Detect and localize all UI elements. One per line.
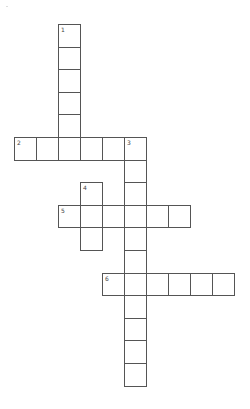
crossword-cell[interactable] (58, 69, 81, 93)
crossword-cell[interactable] (80, 227, 103, 251)
crossword-cell[interactable] (168, 273, 191, 297)
clue-number: 5 (61, 207, 65, 214)
crossword-cell[interactable] (168, 205, 191, 229)
crossword-cell[interactable]: 2 (14, 137, 37, 161)
crossword-cell[interactable] (146, 205, 169, 229)
crossword-cell[interactable]: 4 (80, 182, 103, 206)
crossword-cell[interactable] (146, 273, 169, 297)
crossword-cell[interactable] (80, 137, 103, 161)
clue-number: 4 (83, 184, 87, 191)
crossword-grid: 123456 (0, 0, 250, 409)
crossword-cell[interactable] (102, 137, 125, 161)
crossword-cell[interactable] (102, 205, 125, 229)
crossword-cell[interactable] (58, 47, 81, 71)
crossword-cell[interactable] (124, 182, 147, 206)
crossword-cell[interactable] (190, 273, 213, 297)
crossword-cell[interactable] (36, 137, 59, 161)
crossword-cell[interactable] (124, 227, 147, 251)
crossword-cell[interactable] (124, 318, 147, 342)
crossword-cell[interactable]: 1 (58, 24, 81, 48)
crossword-cell[interactable]: 5 (58, 205, 81, 229)
crossword-cell[interactable] (124, 295, 147, 319)
clue-number: 2 (17, 139, 21, 146)
clue-number: 1 (61, 26, 65, 33)
clue-number: 6 (105, 275, 109, 282)
crossword-cell[interactable] (124, 205, 147, 229)
crossword-cell[interactable] (124, 273, 147, 297)
crossword-cell[interactable] (58, 114, 81, 138)
crossword-cell[interactable] (124, 363, 147, 387)
crossword-cell[interactable]: 6 (102, 273, 125, 297)
crossword-cell[interactable] (124, 340, 147, 364)
corner-mark (6, 6, 8, 7)
crossword-cell[interactable]: 3 (124, 137, 147, 161)
crossword-cell[interactable] (212, 273, 235, 297)
crossword-cell[interactable] (58, 137, 81, 161)
crossword-cell[interactable] (58, 92, 81, 116)
crossword-cell[interactable] (124, 250, 147, 274)
clue-number: 3 (127, 139, 131, 146)
crossword-cell[interactable] (124, 160, 147, 184)
crossword-cell[interactable] (80, 205, 103, 229)
